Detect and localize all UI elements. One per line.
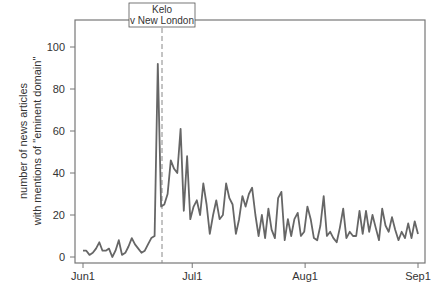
y-tick-label: 40 <box>53 167 65 179</box>
x-tick-label: Jul1 <box>182 270 202 282</box>
event-label-line1: Kelo <box>152 4 172 15</box>
y-tick-label: 60 <box>53 125 65 137</box>
x-tick-label: Sep1 <box>405 270 431 282</box>
x-axis: Jun1Jul1Aug1Sep1 <box>71 263 431 282</box>
y-tick-label: 0 <box>59 251 65 263</box>
y-axis-title-line2: with mentions of "eminent domain" <box>31 57 43 227</box>
y-tick-label: 20 <box>53 209 65 221</box>
x-tick-label: Aug1 <box>292 270 318 282</box>
event-label-line2: v New London <box>130 15 194 26</box>
x-tick-label: Jun1 <box>71 270 95 282</box>
event-annotation-box: Kelo v New London <box>129 3 195 27</box>
y-axis-title-line1: number of news articles <box>17 82 29 199</box>
plot-frame <box>75 20 425 263</box>
eminent-domain-chart: 020406080100 Jun1Jul1Aug1Sep1 number of … <box>0 0 440 294</box>
y-tick-label: 100 <box>47 41 65 53</box>
y-axis: 020406080100 <box>47 41 75 263</box>
y-tick-label: 80 <box>53 83 65 95</box>
data-series-line <box>83 64 418 257</box>
